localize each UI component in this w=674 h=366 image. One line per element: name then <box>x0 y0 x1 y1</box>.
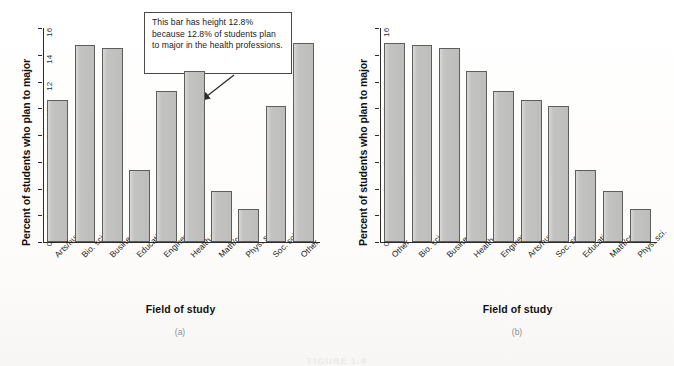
bar <box>156 91 177 242</box>
y-axis-tick <box>375 242 379 243</box>
y-axis-tick <box>38 242 42 243</box>
bar <box>75 45 96 242</box>
y-axis-tick <box>375 162 379 163</box>
bar <box>521 100 542 242</box>
y-axis-tick <box>375 55 379 56</box>
y-axis-tick <box>375 28 379 29</box>
bar <box>129 170 150 242</box>
panel-a-caption: (a) <box>160 327 200 337</box>
bar <box>575 170 596 242</box>
bar <box>238 209 259 242</box>
bar <box>439 48 460 242</box>
y-axis-tick-label: 16 <box>45 28 54 42</box>
y-axis-tick <box>38 108 42 109</box>
panel-b-caption: (b) <box>497 327 537 337</box>
bar <box>211 191 232 242</box>
bar <box>603 191 624 242</box>
y-axis-label-b: Percent of students who plan to major <box>357 59 369 246</box>
chart-panel-b: Percent of students who plan to major Fi… <box>337 0 674 366</box>
y-axis-tick <box>38 162 42 163</box>
annotation-callout: This bar has height 12.8% because 12.8% … <box>144 12 292 74</box>
y-axis-tick-label: 16 <box>382 28 391 42</box>
chart-panel-a: Percent of students who plan to major Fi… <box>0 0 337 366</box>
y-axis-tick <box>38 215 42 216</box>
y-axis-tick <box>375 108 379 109</box>
y-axis-tick <box>375 82 379 83</box>
bar <box>630 209 651 242</box>
y-axis-tick <box>38 55 42 56</box>
bar <box>412 45 433 242</box>
bar <box>293 43 314 242</box>
y-axis-tick <box>375 135 379 136</box>
y-axis-label-a: Percent of students who plan to major <box>20 59 32 246</box>
bar <box>184 71 205 242</box>
y-axis-tick <box>38 28 42 29</box>
bar <box>493 91 514 242</box>
y-axis-tick <box>38 135 42 136</box>
x-axis-label-a: Field of study <box>44 303 317 315</box>
figure-caption: FIGURE 1.4 <box>0 356 674 366</box>
y-axis-tick <box>375 189 379 190</box>
bar <box>548 106 569 242</box>
figure-page: Percent of students who plan to major Fi… <box>0 0 674 366</box>
bar <box>102 48 123 242</box>
bar <box>384 43 405 242</box>
y-axis-tick-label: 0 <box>382 242 391 256</box>
bar <box>466 71 487 242</box>
y-axis-tick <box>38 82 42 83</box>
y-axis-tick <box>375 215 379 216</box>
x-axis-label-b: Field of study <box>381 303 654 315</box>
bar <box>47 100 68 242</box>
y-axis-tick-label: 12 <box>45 82 54 96</box>
y-axis-tick-label: 14 <box>45 55 54 69</box>
bar <box>266 106 287 242</box>
y-axis-tick-label: 0 <box>45 242 54 256</box>
y-axis-tick <box>38 189 42 190</box>
